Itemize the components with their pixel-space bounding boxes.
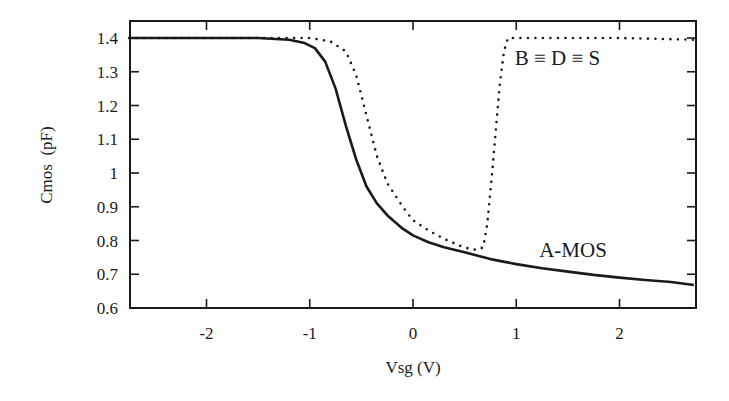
y-tick-label: 1.4 <box>97 29 119 48</box>
series-layer <box>129 38 694 285</box>
x-tick-label: 1 <box>512 324 521 343</box>
annotation-b-d-s: B ≡ D ≡ S <box>515 46 601 70</box>
y-tick-label: 1.2 <box>97 97 118 116</box>
series-b-d-s-line <box>129 38 694 250</box>
x-tick-label: 2 <box>615 324 624 343</box>
y-tick-label: 0.8 <box>97 232 118 251</box>
annotation-a-mos: A-MOS <box>539 238 607 262</box>
y-tick-label: 0.9 <box>97 198 118 217</box>
x-tick-label: -1 <box>303 324 317 343</box>
y-tick-label: 1.1 <box>97 130 118 149</box>
series-a-mos-line <box>129 38 694 285</box>
x-tick-label: -2 <box>199 324 213 343</box>
annotation-layer: B ≡ D ≡ SA-MOS <box>515 46 607 262</box>
y-tick-label: 0.7 <box>97 265 119 284</box>
plot-frame <box>130 21 696 308</box>
y-tick-label: 1.3 <box>97 63 118 82</box>
x-axis-title: Vsg (V) <box>385 358 440 377</box>
y-axis-ticks: 0.60.70.80.911.11.21.31.4 <box>97 29 696 318</box>
chart: 0.60.70.80.911.11.21.31.4 -2-1012 B ≡ D … <box>0 0 729 401</box>
x-tick-label: 0 <box>409 324 418 343</box>
y-axis-title: Cmos (pF) <box>37 126 56 203</box>
y-tick-label: 1 <box>110 164 119 183</box>
y-tick-label: 0.6 <box>97 299 118 318</box>
plot-border <box>130 21 696 308</box>
